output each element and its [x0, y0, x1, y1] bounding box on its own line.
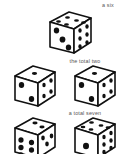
- die-total-seven-right: [69, 114, 125, 154]
- caption-a-six: a six: [86, 2, 130, 8]
- die-total-seven-left: [9, 114, 65, 154]
- die-total-two-left: [9, 62, 65, 110]
- dice-illustration: a six: [0, 0, 134, 154]
- die-total-two-right: [69, 62, 125, 110]
- die-a-six: [39, 8, 95, 58]
